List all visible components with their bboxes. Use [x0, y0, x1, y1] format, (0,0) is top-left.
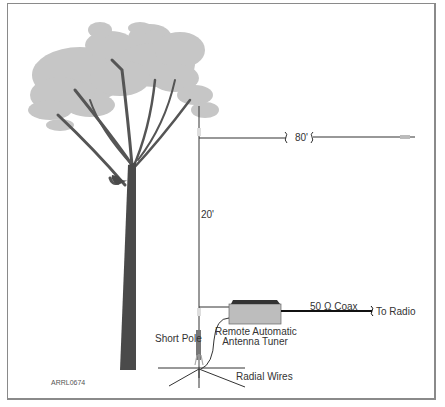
vertical-length-label: 20' [201, 209, 214, 220]
coax-label: 50 Ω Coax [310, 301, 358, 312]
pole-insulator [197, 308, 201, 316]
tuner-label-line2: Antenna Tuner [215, 336, 295, 347]
short-pole-label: Short Pole [155, 333, 202, 344]
break-mark-right [311, 132, 313, 143]
antenna-tuner-box [229, 300, 281, 324]
break-mark-left [285, 132, 287, 143]
tree-trunk [120, 162, 136, 370]
top-insulator [197, 128, 201, 136]
radial-wires-label: Radial Wires [236, 371, 293, 382]
radial-wires [158, 368, 245, 388]
end-insulator [400, 135, 410, 139]
to-radio-label: To Radio [376, 306, 415, 317]
horizontal-length-label: 80' [295, 132, 308, 143]
figure-id: ARRL0674 [51, 377, 85, 388]
